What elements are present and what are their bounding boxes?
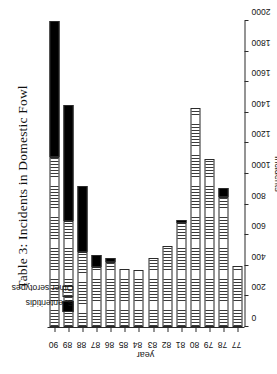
bar-segment-other-serotypes [176,223,186,327]
value-axis-title: incidents [272,21,277,327]
bar-row [77,186,87,327]
category-axis-line [47,327,244,328]
figure-rotator: Table 3: Incidents in Domestic Fowl 7778… [0,0,277,374]
value-axis-tick-label: 600 [251,221,265,231]
category-axis-tick [82,328,83,332]
value-axis-tick-label: 1400 [251,99,270,109]
category-axis-tick [167,328,168,332]
category-axis-tick [110,328,111,332]
value-axis-tick [244,295,248,296]
category-axis-tick [181,328,182,332]
category-axis-tick [153,328,154,332]
value-axis-tick-label: 1200 [251,129,270,139]
bar-row [190,108,200,327]
value-axis-tick [244,20,248,21]
value-axis-tick [244,234,248,235]
bar-segment-other-serotypes [204,159,214,327]
bar-segment-s-enteritidis [105,258,115,262]
bar-segment-s-enteritidis [63,105,73,221]
bar-segment-other-serotypes [91,267,101,327]
bar-segment-other-serotypes [190,108,200,327]
value-axis-tick-label: 1800 [251,38,270,48]
category-axis-tick-label: 90 [42,340,64,350]
value-axis-tick-label: 2000 [251,7,270,17]
bar-row [176,220,186,327]
bar-series-container [47,21,244,327]
value-axis-tick [244,112,248,113]
bar-segment-other-serotypes [218,197,228,327]
plot-area [47,21,244,327]
category-axis-tick [237,328,238,332]
value-axis-tick [244,81,248,82]
category-axis-tick [124,328,125,332]
bar-segment-s-enteritidis [91,255,101,266]
bar-row [105,258,115,327]
figure-caption: Table 3: Incidents in Domestic Fowl [14,0,30,374]
value-axis-tick [244,326,248,327]
legend-label: S. enteritidis [25,298,73,308]
category-axis-tick [96,328,97,332]
category-axis-title: year [132,350,158,360]
bar-row [148,258,158,327]
bar-segment-other-serotypes [148,258,158,327]
category-axis-tick [195,328,196,332]
value-axis-line [244,21,245,327]
value-axis-tick [244,142,248,143]
bar-row [162,246,172,327]
bar-row [133,270,143,327]
category-axis-tick [68,328,69,332]
value-axis-tick-label: 0 [251,313,256,323]
bar-row [49,21,59,327]
value-axis-tick-label: 1000 [251,160,270,170]
bar-row [91,255,101,327]
bar-segment-s-enteritidis [77,186,87,252]
value-axis-tick-label: 1600 [251,68,270,78]
legend-label: Other serotypes [11,283,73,293]
category-axis-tick [138,328,139,332]
value-axis-tick [244,265,248,266]
category-axis-tick [54,328,55,332]
bar-segment-other-serotypes [77,252,87,327]
legend-item: S. enteritidis [62,301,73,312]
bar-segment-other-serotypes [162,246,172,327]
bar-segment-s-enteritidis [49,21,59,157]
bar-row [232,266,242,327]
bar-row [218,188,228,327]
value-axis-tick [244,51,248,52]
bar-chart-figure: Table 3: Incidents in Domestic Fowl 7778… [0,0,277,374]
category-axis-tick [209,328,210,332]
value-axis-tick-label: 800 [251,191,265,201]
category-axis-tick [223,328,224,332]
bar-row [119,269,129,327]
value-axis-tick-label: 200 [251,282,265,292]
value-axis-tick-label: 400 [251,252,265,262]
bar-row [204,159,214,327]
bar-segment-other-serotypes [119,269,129,327]
bar-segment-s-enteritidis [218,188,228,197]
value-axis-tick [244,204,248,205]
bar-segment-other-serotypes [133,270,143,327]
legend-item: Other serotypes [62,286,73,297]
bar-segment-s-enteritidis [176,220,186,223]
bar-segment-other-serotypes [105,262,115,327]
value-axis-tick [244,173,248,174]
bar-segment-other-serotypes [232,266,242,327]
